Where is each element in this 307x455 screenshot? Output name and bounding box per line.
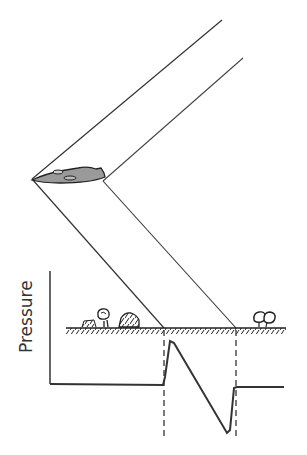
- ground: [66, 328, 286, 334]
- tree-icon: [98, 309, 109, 327]
- trees-right-icon: [254, 312, 275, 327]
- sonic-boom-diagram: [0, 0, 307, 455]
- n-wave-pressure-signature: [50, 341, 284, 433]
- pressure-axis-label: Pressure: [14, 273, 38, 353]
- tail-shock-wave: [103, 58, 243, 328]
- house-icon: [82, 320, 96, 327]
- shock-projection-lines: [164, 330, 236, 440]
- mound-icon: [119, 313, 139, 327]
